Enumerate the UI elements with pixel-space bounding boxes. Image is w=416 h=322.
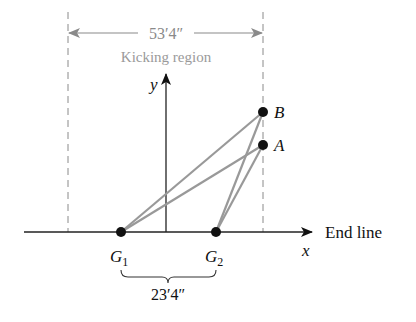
- kicking-region-caption: Kicking region: [121, 49, 212, 65]
- point-g1: [116, 227, 126, 237]
- x-axis-label: x: [301, 241, 310, 260]
- goal-width-brace: [121, 270, 216, 283]
- kicking-region-diagram: 53′4″ Kicking region y x End line B A G1…: [0, 0, 416, 322]
- point-b: [258, 107, 268, 117]
- width-dimension-label: 53′4″: [149, 25, 183, 42]
- goal-width-label: 23′4″: [151, 286, 185, 303]
- point-a-label: A: [273, 136, 285, 155]
- point-g2-label: G2: [205, 247, 223, 269]
- point-g1-label: G1: [110, 247, 128, 269]
- end-line-label: End line: [325, 223, 382, 242]
- line-g1-a: [121, 145, 263, 232]
- point-a: [258, 140, 268, 150]
- line-g2-b: [216, 112, 263, 232]
- line-g1-b: [121, 112, 263, 232]
- point-b-label: B: [274, 103, 285, 122]
- kick-lines: [121, 112, 263, 232]
- line-g2-a: [216, 145, 263, 232]
- point-g2: [211, 227, 221, 237]
- y-axis-label: y: [148, 75, 158, 94]
